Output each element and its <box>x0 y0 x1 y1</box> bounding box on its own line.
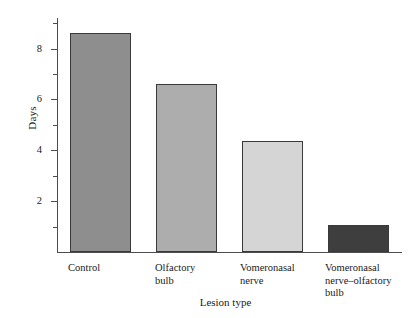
plot-area: 2468 <box>57 18 402 253</box>
bar-series <box>57 18 402 253</box>
y-axis-tick-label: 4 <box>37 145 42 156</box>
bar-chart-figure: Days 2468 ControlOlfactory bulbVomeronas… <box>0 0 411 318</box>
bar <box>328 225 389 252</box>
x-axis-category-label: Vomeronasal nerve <box>240 262 295 287</box>
x-axis-title: Lesion type <box>0 296 411 308</box>
bar <box>156 84 217 252</box>
y-axis-tick-label: 6 <box>37 94 42 105</box>
x-axis-category-label: Olfactory bulb <box>155 262 195 287</box>
bar <box>242 141 303 252</box>
y-axis-tick-label: 2 <box>37 196 42 207</box>
y-axis-tick-label: 8 <box>37 43 42 54</box>
bar <box>70 33 131 252</box>
x-axis-category-label: Control <box>68 262 100 275</box>
x-axis-category-label: Vomeronasal nerve–olfactory bulb <box>325 262 391 300</box>
